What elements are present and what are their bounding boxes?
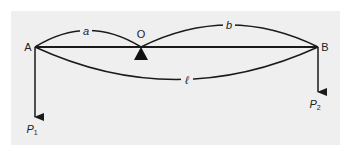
dimension-arc-l xyxy=(35,47,318,80)
point-label-o: O xyxy=(137,28,146,40)
point-label-a: A xyxy=(24,41,32,53)
force-label-p2: P2 xyxy=(309,98,320,111)
dimension-label-a: a xyxy=(83,25,89,37)
lever-diagram: a b ℓ A O B P1 P2 xyxy=(0,0,352,156)
dimension-label-l: ℓ xyxy=(184,74,189,86)
force-label-p1: P1 xyxy=(26,123,37,136)
point-label-b: B xyxy=(321,41,328,53)
pivot-triangle-icon xyxy=(134,47,148,60)
dimension-label-b: b xyxy=(226,19,232,31)
